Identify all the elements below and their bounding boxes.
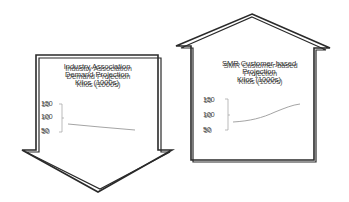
left-y-ticks: 15050 10090 5050 [41,100,59,140]
right-y-ticks: 15050 10090 5050 [203,96,223,136]
left-panel-title: Industry AssociationIndustry Association… [44,63,150,87]
right-panel-title: SMR Customer-basedSMR Customer-based Pro… [204,60,314,84]
house-shape [176,14,330,162]
